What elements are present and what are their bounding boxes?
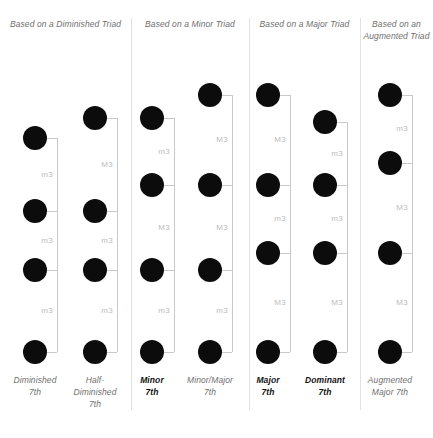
note-dot [378,151,402,175]
interval-label-M3: M3 [378,298,408,307]
note-dot [378,340,402,364]
chord-name-line: Augmented [354,374,426,386]
note-dot [378,83,402,107]
chord-chart-figure: Based on a Diminished TriadBased on a Mi… [0,0,433,438]
interval-label-M3: M3 [378,203,408,212]
interval-bracket-spine [412,95,413,352]
chord-column-augmented-major-7th: M3M3m3AugmentedMajor 7th [0,0,433,438]
chord-name-label: AugmentedMajor 7th [354,374,426,398]
chord-name-line: Major 7th [354,386,426,398]
interval-label-m3: m3 [378,124,408,133]
note-dot [378,241,402,265]
